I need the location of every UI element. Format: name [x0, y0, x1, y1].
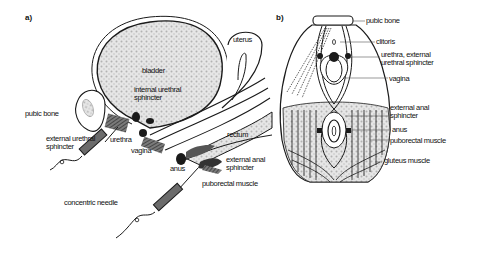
label-anus-a: anus	[170, 165, 185, 173]
pubic-bone-b	[313, 16, 353, 25]
label-pubic-bone-b: pubic bone	[366, 17, 400, 25]
concentric-needle-2	[153, 183, 182, 210]
label-puborectal-muscle-a: puborectal muscle	[202, 180, 258, 188]
label-line: sphincter	[46, 143, 95, 151]
label-urethra-external-urethral-sphincter: urethra, external urethral sphincter	[381, 51, 434, 67]
panel-b-tag: b)	[276, 13, 284, 22]
panel-a-tag: a)	[25, 13, 32, 22]
label-line: sphincter	[390, 112, 429, 120]
clitoris-mark	[333, 40, 336, 45]
label-vagina-a: vagina	[131, 147, 151, 155]
label-external-anal-sphincter-b: external anal sphincter	[390, 104, 429, 120]
label-internal-urethral-sphincter: internal urethral sphincter	[134, 86, 181, 102]
label-urethra: urethra	[110, 136, 132, 144]
label-external-anal-sphincter-a: external anal sphincter	[226, 156, 265, 172]
label-line: sphincter	[134, 94, 181, 102]
label-vagina-b: vagina	[389, 75, 409, 83]
label-anus-b: anus	[392, 126, 407, 134]
label-line: sphincter	[226, 164, 265, 172]
label-rectum: rectum	[227, 131, 248, 139]
label-pubic-bone-a: pubic bone	[25, 110, 59, 118]
urethra-mark	[329, 52, 339, 62]
label-line: urethral sphincter	[381, 59, 434, 67]
label-concentric-needle: concentric needle	[64, 199, 118, 207]
label-puborectal-muscle-b: puborectal muscle	[390, 137, 446, 145]
label-external-urethral-sphincter: external urethral sphincter	[46, 135, 95, 151]
label-uterus: uterus	[233, 36, 252, 44]
label-clitoris: clitoris	[376, 38, 395, 46]
label-bladder: bladder	[142, 67, 165, 75]
label-gluteus-muscle: gluteus muscle	[384, 157, 430, 165]
panel-b-diagram	[280, 16, 390, 182]
